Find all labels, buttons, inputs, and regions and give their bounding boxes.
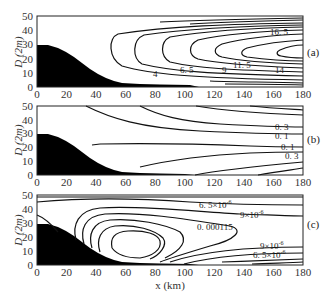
svg-text:160: 160 <box>265 88 282 100</box>
svg-text:20: 20 <box>61 176 73 188</box>
svg-text:140: 140 <box>236 266 253 278</box>
svg-text:40: 40 <box>22 114 34 126</box>
svg-text:180: 180 <box>295 88 312 100</box>
contour-figure: 4 6. 5 9 11. 5 14 16. 5 (a) 0 10 20 30 4… <box>0 0 328 303</box>
contour-label-11.5: 11. 5 <box>233 60 251 70</box>
panel-label-b: (b) <box>307 133 320 146</box>
panel-b: 0. 3 0. 1 0. 1 0. 3 (b) 0 10 20 30 40 50… <box>12 100 320 188</box>
y-axis-label-a: D (2m) <box>12 36 25 69</box>
svg-text:40: 40 <box>22 24 34 36</box>
contour-label-4: 4 <box>153 69 158 79</box>
panel-a: 4 6. 5 9 11. 5 14 16. 5 (a) 0 10 20 30 4… <box>12 10 320 100</box>
svg-text:100: 100 <box>177 176 194 188</box>
y-axis-label-b: D (2m) <box>12 124 25 157</box>
svg-text:100: 100 <box>177 266 194 278</box>
contour-label-6.5e-6-lower: 6. 5×10-6 <box>253 249 286 260</box>
svg-text:40: 40 <box>91 88 103 100</box>
svg-text:0: 0 <box>28 169 34 181</box>
contour-label-0.000115: 0. 000115 <box>197 222 233 232</box>
y-axis-label-c: D (2m) <box>12 214 25 247</box>
svg-text:120: 120 <box>206 266 223 278</box>
x-axis-c: 0 20 40 60 80 100 120 140 160 180 <box>34 266 312 278</box>
svg-text:140: 140 <box>236 88 253 100</box>
svg-text:100: 100 <box>177 88 194 100</box>
svg-text:20: 20 <box>61 266 73 278</box>
svg-text:50: 50 <box>22 10 34 22</box>
svg-text:0: 0 <box>34 266 40 278</box>
svg-text:40: 40 <box>22 203 34 215</box>
svg-text:160: 160 <box>265 176 282 188</box>
x-axis-b: 0 20 40 60 80 100 120 140 160 180 <box>34 176 312 188</box>
svg-text:140: 140 <box>236 176 253 188</box>
contour-label-16.5: 16. 5 <box>270 27 289 37</box>
contour-label-0.3-lower: 0. 3 <box>285 151 299 161</box>
x-axis-a: 0 20 40 60 80 100 120 140 160 180 <box>34 88 312 100</box>
contour-label-0.1-upper: 0. 1 <box>275 131 289 141</box>
svg-text:0: 0 <box>34 88 40 100</box>
svg-text:0: 0 <box>28 81 34 93</box>
svg-text:10: 10 <box>22 155 34 167</box>
terrain-obstacle <box>37 45 199 87</box>
svg-text:60: 60 <box>120 88 132 100</box>
contour-label-6.5: 6. 5 <box>180 65 194 75</box>
terrain-obstacle <box>37 134 194 175</box>
svg-text:180: 180 <box>295 266 312 278</box>
svg-text:40: 40 <box>91 266 103 278</box>
panel-label-c: (c) <box>307 218 320 231</box>
svg-text:40: 40 <box>91 176 103 188</box>
contour-label-14: 14 <box>275 65 285 75</box>
svg-text:0: 0 <box>34 176 40 188</box>
svg-text:0: 0 <box>28 259 34 271</box>
svg-text:180: 180 <box>295 176 312 188</box>
panel-c: 6. 5×10-6 9×10-6 0. 000115 9×10-6 6. 5×1… <box>12 189 320 292</box>
contour-label-9e-6-upper: 9×10-6 <box>240 209 264 220</box>
svg-text:50: 50 <box>22 100 34 112</box>
svg-text:20: 20 <box>61 88 73 100</box>
contours-b <box>86 106 303 175</box>
svg-text:10: 10 <box>22 245 34 257</box>
svg-text:120: 120 <box>206 176 223 188</box>
svg-text:10: 10 <box>22 67 34 79</box>
contour-label-9: 9 <box>222 65 227 75</box>
svg-text:60: 60 <box>120 176 132 188</box>
x-axis-label: x (km) <box>155 279 185 292</box>
svg-text:80: 80 <box>150 176 162 188</box>
svg-text:50: 50 <box>22 189 34 201</box>
contour-label-6.5e-6-upper: 6. 5×10-6 <box>199 199 232 210</box>
svg-text:120: 120 <box>206 88 223 100</box>
svg-text:160: 160 <box>265 266 282 278</box>
svg-text:60: 60 <box>120 266 132 278</box>
svg-text:80: 80 <box>150 88 162 100</box>
terrain-obstacle <box>37 224 199 265</box>
panel-label-a: (a) <box>307 46 320 59</box>
svg-text:80: 80 <box>150 266 162 278</box>
